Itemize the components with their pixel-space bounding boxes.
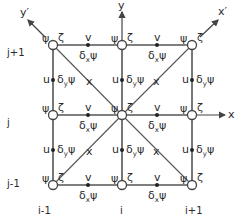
edge-u: u bbox=[43, 144, 50, 155]
node-zeta: ζ bbox=[197, 102, 203, 113]
node-psi: ψ bbox=[180, 173, 187, 184]
edge-dy-psi: δyψ bbox=[196, 144, 214, 157]
edge-dx-psi: δxψ bbox=[148, 190, 166, 203]
node-zeta: ζ bbox=[127, 102, 133, 113]
node-zeta: ζ bbox=[197, 172, 203, 183]
edge-v: v bbox=[85, 102, 92, 113]
diagonal-label: x bbox=[86, 76, 93, 87]
col-label-im1: i-1 bbox=[38, 205, 51, 216]
edge-dy-psi: δyψ bbox=[57, 144, 75, 157]
col-label-ip1: i+1 bbox=[185, 205, 203, 216]
node-psi: ψ bbox=[42, 173, 49, 184]
edge-dx-psi: δxψ bbox=[148, 120, 166, 133]
row-label-jm1: j-1 bbox=[7, 178, 20, 189]
node-psi: ψ bbox=[111, 33, 118, 44]
edge-dy-psi: δyψ bbox=[126, 144, 144, 157]
node-zeta: ζ bbox=[127, 32, 133, 43]
diagonal-label: x bbox=[86, 146, 93, 157]
node-psi: ψ bbox=[42, 33, 49, 44]
edge-dy-psi: δyψ bbox=[196, 74, 214, 87]
node-zeta: ζ bbox=[197, 32, 203, 43]
edge-dx-psi: δxψ bbox=[79, 190, 97, 203]
edge-v: v bbox=[85, 172, 92, 183]
node-psi: ψ bbox=[111, 173, 118, 184]
diagonal-label: x bbox=[153, 76, 160, 87]
node-zeta: ζ bbox=[58, 102, 64, 113]
edge-u: u bbox=[112, 74, 119, 85]
edge-u: u bbox=[43, 74, 50, 85]
node-psi: ψ bbox=[111, 103, 118, 114]
edge-u: u bbox=[182, 144, 189, 155]
row-label-j: j bbox=[7, 117, 10, 128]
node-psi: ψ bbox=[180, 33, 187, 44]
node-zeta: ζ bbox=[127, 172, 133, 183]
edge-dy-psi: δyψ bbox=[126, 74, 144, 87]
edge-u: u bbox=[112, 144, 119, 155]
edge-dx-psi: δxψ bbox=[79, 120, 97, 133]
node-psi: ψ bbox=[180, 103, 187, 114]
x-prime-axis-label: x′ bbox=[218, 6, 227, 17]
edge-v: v bbox=[154, 172, 161, 183]
node-psi: ψ bbox=[42, 103, 49, 114]
node-zeta: ζ bbox=[58, 32, 64, 43]
row-label-jp1: j+1 bbox=[7, 47, 25, 58]
edge-v: v bbox=[154, 102, 161, 113]
node-zeta: ζ bbox=[58, 172, 64, 183]
y-prime-axis-label: y′ bbox=[20, 7, 29, 18]
diagonal-label: x bbox=[153, 146, 160, 157]
edge-dy-psi: δyψ bbox=[57, 74, 75, 87]
col-label-i: i bbox=[120, 205, 123, 216]
edge-dx-psi: δxψ bbox=[148, 50, 166, 63]
edge-dx-psi: δxψ bbox=[79, 50, 97, 63]
y-axis-label: y bbox=[118, 0, 125, 11]
edge-u: u bbox=[182, 74, 189, 85]
edge-v: v bbox=[154, 32, 161, 43]
edge-v: v bbox=[85, 32, 92, 43]
x-axis-label: x bbox=[228, 109, 235, 120]
grid-diagram bbox=[0, 0, 241, 219]
